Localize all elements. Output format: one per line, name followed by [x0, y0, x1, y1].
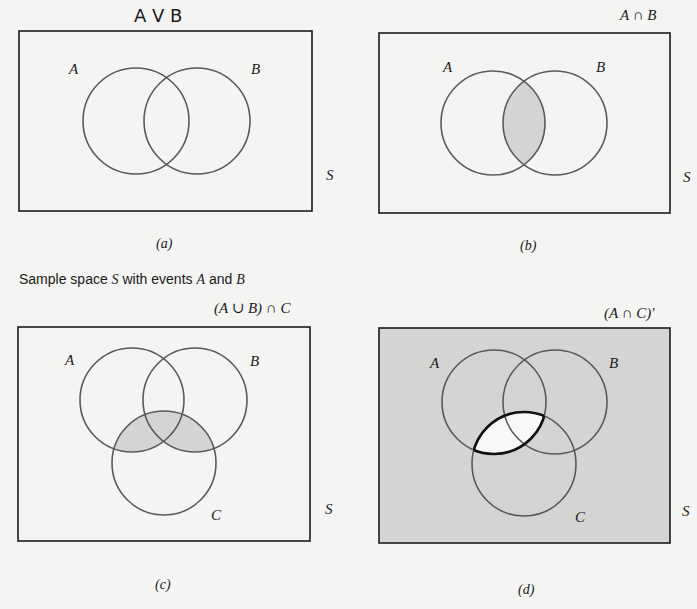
label-b: B [609, 355, 618, 371]
label-s: S [326, 167, 334, 183]
panel-d-title: (A ∩ C)′ [604, 305, 655, 322]
shaded-region-aub-and-c [80, 348, 247, 452]
panel-c-title: (A ∪ B) ∩ C [214, 300, 291, 317]
circle-a [83, 68, 189, 174]
label-a: A [442, 59, 453, 75]
panel-c-sublabel: (c) [155, 577, 171, 593]
label-s: S [683, 169, 691, 185]
panel-b: A ∩ B A B S (b) [379, 7, 691, 254]
panel-a-title: A V B [134, 5, 182, 26]
label-b: B [250, 353, 259, 369]
panel-c: (A ∪ B) ∩ C A B C S (c) [18, 300, 333, 593]
figure-caption: Sample space S with events A and B [19, 271, 245, 287]
panel-b-sublabel: (b) [520, 238, 537, 254]
venn-diagram-figure: A V B A B S (a) Sample space S with even… [0, 0, 697, 609]
panel-d-sublabel: (d) [518, 582, 535, 598]
circle-b [144, 68, 250, 174]
label-a: A [64, 352, 75, 368]
panel-d: (A ∩ C)′ A B C S (d) [379, 305, 690, 598]
label-s: S [682, 503, 690, 519]
label-a: A [68, 61, 79, 77]
sample-space-rect [19, 31, 312, 211]
panel-b-title: A ∩ B [619, 7, 656, 23]
label-s: S [325, 501, 333, 517]
label-b: B [596, 59, 605, 75]
label-b: B [251, 61, 260, 77]
panel-a: A V B A B S (a) [19, 5, 334, 252]
label-c: C [575, 509, 586, 525]
panel-a-sublabel: (a) [156, 236, 173, 252]
label-c: C [211, 507, 222, 523]
label-a: A [429, 355, 440, 371]
